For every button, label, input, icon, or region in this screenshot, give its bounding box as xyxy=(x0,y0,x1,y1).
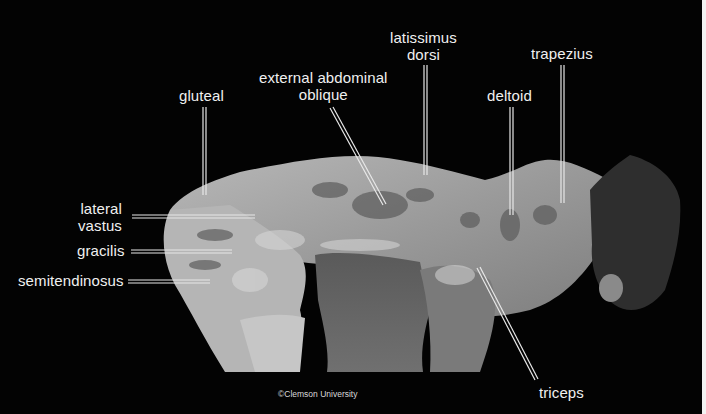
label-lateral-vastus: lateral vastus xyxy=(78,200,122,234)
ear-shape xyxy=(599,274,623,302)
hind-shank-shape xyxy=(315,253,430,372)
label-latissimus-dorsi: latissimus dorsi xyxy=(390,29,457,63)
label-line: lateral xyxy=(78,200,122,217)
label-line: oblique xyxy=(259,86,388,103)
copyright-notice: ©Clemson University xyxy=(278,389,357,399)
label-external-abdominal-oblique: external abdominal oblique xyxy=(259,69,388,103)
label-trapezius: trapezius xyxy=(531,45,593,62)
label-deltoid: deltoid xyxy=(487,87,532,104)
label-line: latissimus xyxy=(390,29,457,46)
right-border-strip xyxy=(702,0,706,414)
label-semitendinosus: semitendinosus xyxy=(18,272,124,289)
label-gracilis: gracilis xyxy=(77,242,124,259)
label-gluteal: gluteal xyxy=(179,87,224,104)
label-line: vastus xyxy=(78,217,122,234)
label-line: external abdominal xyxy=(259,69,388,86)
label-line: dorsi xyxy=(390,46,457,63)
anatomy-figure: gluteal external abdominal oblique latis… xyxy=(0,0,702,414)
label-triceps: triceps xyxy=(539,384,584,401)
